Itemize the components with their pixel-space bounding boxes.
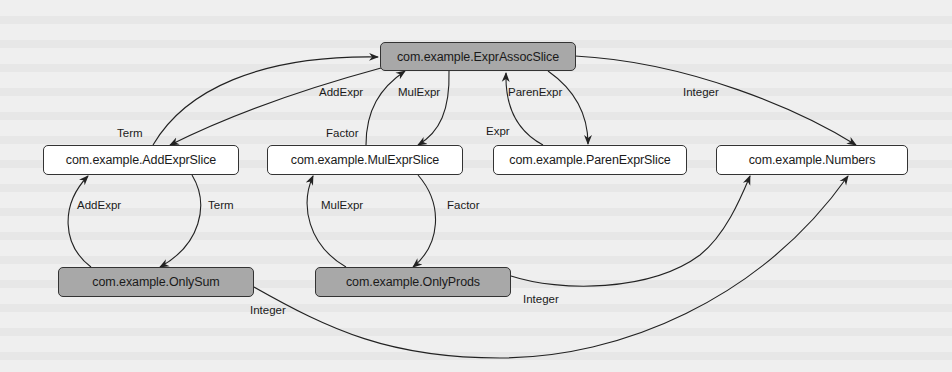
edge-label-mulexpr-top: MulExpr [398,86,440,98]
edge-label-integer-onlyprods: Integer [523,293,559,305]
node-numbers[interactable]: com.example.Numbers [716,145,908,175]
node-label: com.example.ParenExprSlice [509,153,670,167]
edge-exprassoc-to-mulexpr [418,71,449,145]
edge-onlysum-to-addexpr [68,176,91,267]
edge-onlyprods-to-numbers [511,176,750,286]
edge-label-mulexpr-bottom: MulExpr [321,199,363,211]
edge-mulexpr-to-onlyprods [413,175,436,267]
node-label: com.example.Numbers [749,153,876,167]
edge-exprassoc-to-numbers [575,56,856,145]
edge-label-factor-bottom: Factor [447,199,480,211]
edge-label-integer-onlysum: Integer [250,304,286,316]
edge-onlyprods-to-mulexpr [307,176,346,267]
edge-addexpr-to-onlysum [160,175,201,267]
node-label: com.example.OnlyProds [346,275,480,289]
node-paren-expr-slice[interactable]: com.example.ParenExprSlice [493,145,687,175]
node-label: com.example.AddExprSlice [66,153,216,167]
edge-label-term-bottom: Term [208,199,234,211]
edge-mulexpr-to-exprassoc [366,71,405,145]
node-label: com.example.ExprAssocSlice [397,50,559,64]
node-add-expr-slice[interactable]: com.example.AddExprSlice [43,145,239,175]
edge-label-integer-top: Integer [683,86,719,98]
edge-label-factor-top: Factor [326,127,359,139]
edge-parenexpr-to-exprassoc [506,73,543,145]
edge-label-addexpr-top: AddExpr [319,86,363,98]
edge-label-expr-top: Expr [486,125,510,137]
node-label: com.example.OnlySum [92,275,219,289]
node-only-sum[interactable]: com.example.OnlySum [58,267,254,297]
edge-label-addexpr-bottom: AddExpr [77,199,121,211]
edge-label-parenexpr-top: ParenExpr [508,86,562,98]
node-only-prods[interactable]: com.example.OnlyProds [315,267,511,297]
edge-label-term-top: Term [117,127,143,139]
node-expr-assoc-slice[interactable]: com.example.ExprAssocSlice [380,42,576,71]
edge-exprassoc-to-parenexpr [548,71,588,144]
node-label: com.example.MulExprSlice [291,153,439,167]
node-mul-expr-slice[interactable]: com.example.MulExprSlice [267,145,463,175]
